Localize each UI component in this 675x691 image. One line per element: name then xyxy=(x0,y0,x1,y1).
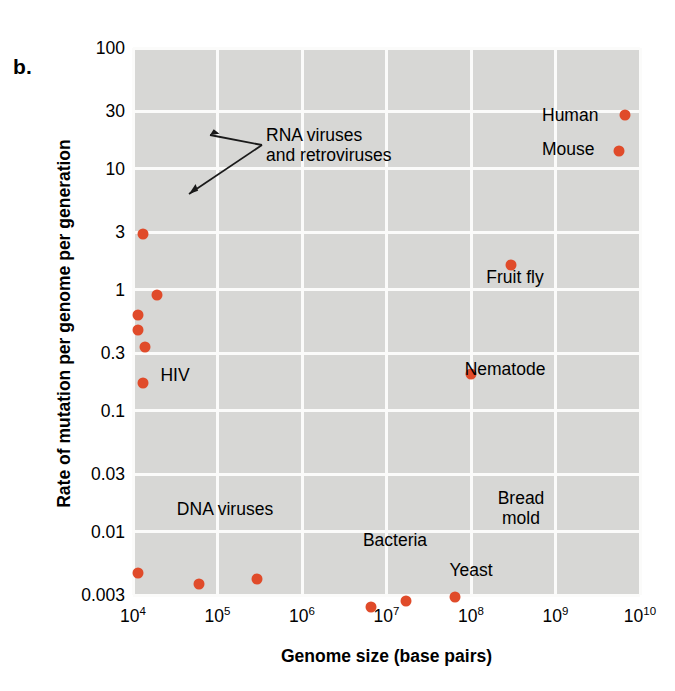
annotation-fruit-fly: Fruit fly xyxy=(486,268,543,288)
data-point xyxy=(251,573,262,584)
y-axis-tick-label: 100 xyxy=(5,38,125,59)
y-axis-tick-label: 0.03 xyxy=(5,464,125,485)
x-axis-tick-labels: 1041051061071081091010 xyxy=(133,605,640,637)
annotation-bread-mold: Bread mold xyxy=(498,489,545,528)
data-point xyxy=(133,324,144,335)
annotation-dna-viruses: DNA viruses xyxy=(177,500,273,520)
data-point xyxy=(450,591,461,602)
data-point xyxy=(133,567,144,578)
data-point xyxy=(613,146,624,157)
annotation-bread-mold-line2: mold xyxy=(498,509,545,529)
x-axis-tick-label: 105 xyxy=(205,605,231,627)
y-axis-tick-label: 10 xyxy=(5,158,125,179)
data-point xyxy=(133,309,144,320)
data-point xyxy=(140,341,151,352)
y-axis-tick-label: 0.003 xyxy=(5,585,125,606)
x-axis-tick-label: 106 xyxy=(289,605,315,627)
annotation-nematode: Nematode xyxy=(465,360,546,380)
y-axis-tick-label: 0.1 xyxy=(5,400,125,421)
annotation-rna-viruses-line1: RNA viruses xyxy=(266,126,391,146)
x-axis-tick-label: 104 xyxy=(120,605,146,627)
annotation-mouse: Mouse xyxy=(542,140,595,160)
annotation-bacteria: Bacteria xyxy=(363,531,427,551)
annotation-rna-viruses: RNA viruses and retroviruses xyxy=(266,126,391,165)
data-point xyxy=(619,109,630,120)
annotation-yeast: Yeast xyxy=(449,561,492,581)
annotation-rna-viruses-line2: and retroviruses xyxy=(266,146,391,166)
x-axis-tick-label: 109 xyxy=(543,605,569,627)
x-axis-tick-label: 108 xyxy=(458,605,484,627)
x-axis-tick-label: 107 xyxy=(374,605,400,627)
figure-panel-b: b. Rate of mutation per genome per gener… xyxy=(0,0,675,691)
data-point xyxy=(137,228,148,239)
x-axis-title: Genome size (base pairs) xyxy=(133,646,640,667)
annotation-hiv: HIV xyxy=(160,366,189,386)
data-point xyxy=(193,578,204,589)
data-point xyxy=(151,290,162,301)
y-axis-tick-label: 3 xyxy=(5,222,125,243)
annotation-bread-mold-line1: Bread xyxy=(498,489,545,509)
y-axis-tick-label: 30 xyxy=(5,101,125,122)
x-axis-tick-label: 1010 xyxy=(624,605,656,627)
plot-area: RNA viruses and retroviruses HIV Human M… xyxy=(133,48,640,595)
y-axis-tick-label: 0.3 xyxy=(5,343,125,364)
y-axis-tick-label: 0.01 xyxy=(5,521,125,542)
y-axis-tick-label: 1 xyxy=(5,279,125,300)
data-point xyxy=(137,377,148,388)
annotation-human: Human xyxy=(542,106,598,126)
y-axis-tick-labels: 1003010310.30.10.030.010.003 xyxy=(0,48,125,595)
